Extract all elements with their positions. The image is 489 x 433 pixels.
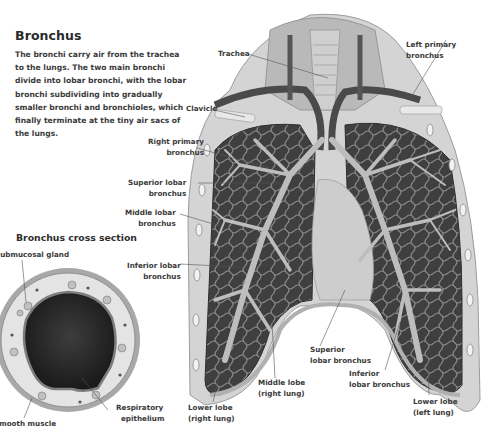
label-lower-lobe-left-lung: Lower lobe (left lung) (413, 397, 458, 418)
label-middle-lobar-bronchus: Middle lobar bronchus (125, 208, 176, 229)
label-right-primary-bronchus: Right primary bronchus (148, 137, 204, 158)
label-respiratory-epithelium: Respiratory epithelium (116, 403, 164, 424)
label-inferior-lobar-bronchus-right: Inferior lobar bronchus (127, 261, 181, 282)
page-title: Bronchus (15, 28, 82, 43)
label-submucosal-gland: Submucosal gland (0, 250, 69, 261)
intro-text: The bronchi carry air from the trachea t… (15, 48, 187, 140)
bronchus-cross-section (0, 268, 140, 412)
label-superior-lobar-bronchus-left: Superior lobar bronchus (310, 345, 371, 366)
label-superior-lobar-bronchus-right: Superior lobar bronchus (128, 178, 186, 199)
label-lower-lobe-right-lung: Lower lobe (right lung) (188, 403, 235, 424)
label-trachea: Trachea (218, 49, 250, 60)
label-smooth-muscle: Smooth muscle (0, 419, 56, 430)
label-left-primary-bronchus: Left primary bronchus (406, 40, 456, 61)
cross-section-title: Bronchus cross section (16, 232, 137, 243)
label-clavicle: Clavicle (186, 104, 217, 115)
label-inferior-lobar-bronchus-left: Inferior lobar bronchus (349, 369, 410, 390)
label-middle-lobe-right-lung: Middle lobe (right lung) (258, 378, 305, 399)
